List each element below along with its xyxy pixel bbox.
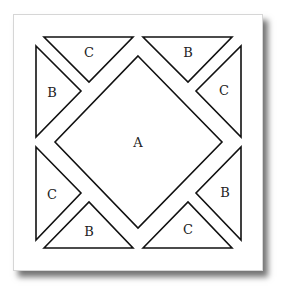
triangle-top-right-right-label: C bbox=[219, 83, 229, 98]
center-diamond-label: A bbox=[132, 135, 143, 150]
triangle-bottom-left-left-label: C bbox=[47, 187, 57, 202]
triangle-top-left-left-label: B bbox=[47, 85, 57, 100]
triangle-top-left-top-label: C bbox=[84, 45, 94, 60]
triangle-bottom-right-right-label: B bbox=[220, 185, 230, 200]
triangle-bottom-left-bottom-label: B bbox=[84, 224, 94, 239]
quilt-block-diagram: A C B B C C B B C bbox=[0, 0, 281, 294]
triangle-bottom-right-bottom-label: C bbox=[183, 222, 193, 237]
triangle-top-right-top-label: B bbox=[183, 45, 193, 60]
